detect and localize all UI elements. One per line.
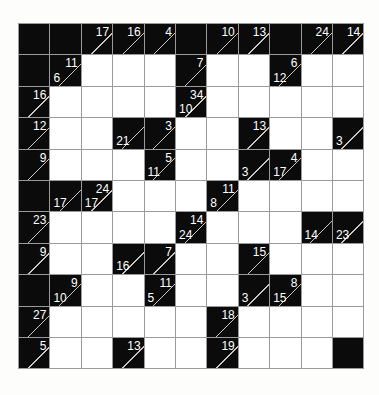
- entry-cell[interactable]: [82, 275, 113, 306]
- clue-across-value: 27: [33, 309, 46, 321]
- entry-cell[interactable]: [270, 244, 301, 275]
- entry-cell[interactable]: [176, 181, 207, 212]
- entry-cell[interactable]: [82, 118, 113, 149]
- entry-cell[interactable]: [50, 244, 81, 275]
- blocked-cell: [19, 181, 50, 212]
- entry-cell[interactable]: [302, 55, 333, 86]
- entry-cell[interactable]: [82, 150, 113, 181]
- entry-cell[interactable]: [207, 244, 238, 275]
- entry-cell[interactable]: [82, 338, 113, 369]
- clue-across-value: 14: [347, 26, 360, 38]
- entry-cell[interactable]: [239, 307, 270, 338]
- entry-cell[interactable]: [302, 338, 333, 369]
- entry-cell[interactable]: [82, 212, 113, 243]
- entry-cell[interactable]: [302, 118, 333, 149]
- entry-cell[interactable]: [82, 87, 113, 118]
- entry-cell[interactable]: [270, 307, 301, 338]
- clue-cell: 13: [239, 118, 270, 149]
- entry-cell[interactable]: [176, 338, 207, 369]
- clue-across-value: 3: [165, 120, 172, 132]
- entry-cell[interactable]: [302, 150, 333, 181]
- clue-across-value: 4: [165, 26, 172, 38]
- blocked-cell: [333, 338, 364, 369]
- entry-cell[interactable]: [50, 87, 81, 118]
- entry-cell[interactable]: [113, 181, 144, 212]
- clue-cell: 17: [50, 181, 81, 212]
- entry-cell[interactable]: [145, 338, 176, 369]
- entry-cell[interactable]: [333, 307, 364, 338]
- clue-cell: 16: [113, 244, 144, 275]
- entry-cell[interactable]: [50, 338, 81, 369]
- entry-cell[interactable]: [239, 212, 270, 243]
- entry-cell[interactable]: [207, 212, 238, 243]
- entry-cell[interactable]: [333, 55, 364, 86]
- entry-cell[interactable]: [333, 150, 364, 181]
- entry-cell[interactable]: [207, 87, 238, 118]
- clue-across-value: 14: [190, 214, 203, 226]
- entry-cell[interactable]: [176, 118, 207, 149]
- entry-cell[interactable]: [113, 275, 144, 306]
- entry-cell[interactable]: [302, 307, 333, 338]
- entry-cell[interactable]: [207, 118, 238, 149]
- entry-cell[interactable]: [302, 244, 333, 275]
- entry-cell[interactable]: [113, 55, 144, 86]
- clue-cell: 19: [207, 338, 238, 369]
- clue-down-value: 16: [116, 260, 129, 272]
- entry-cell[interactable]: [82, 244, 113, 275]
- entry-cell[interactable]: [145, 181, 176, 212]
- clue-cell: 18: [207, 307, 238, 338]
- entry-cell[interactable]: [333, 275, 364, 306]
- entry-cell[interactable]: [50, 150, 81, 181]
- clue-cell: 115: [145, 275, 176, 306]
- blocked-cell: [176, 24, 207, 55]
- entry-cell[interactable]: [50, 307, 81, 338]
- entry-cell[interactable]: [207, 55, 238, 86]
- clue-across-value: 4: [291, 152, 298, 164]
- entry-cell[interactable]: [207, 275, 238, 306]
- entry-cell[interactable]: [239, 55, 270, 86]
- entry-cell[interactable]: [145, 87, 176, 118]
- entry-cell[interactable]: [50, 118, 81, 149]
- entry-cell[interactable]: [207, 150, 238, 181]
- entry-cell[interactable]: [239, 87, 270, 118]
- entry-cell[interactable]: [176, 150, 207, 181]
- clue-across-value: 8: [291, 277, 298, 289]
- entry-cell[interactable]: [50, 212, 81, 243]
- entry-cell[interactable]: [145, 55, 176, 86]
- clue-cell: 17: [82, 24, 113, 55]
- entry-cell[interactable]: [270, 181, 301, 212]
- entry-cell[interactable]: [176, 275, 207, 306]
- entry-cell[interactable]: [302, 275, 333, 306]
- clue-cell: 9: [19, 244, 50, 275]
- clue-cell: 7: [176, 55, 207, 86]
- entry-cell[interactable]: [302, 87, 333, 118]
- entry-cell[interactable]: [82, 307, 113, 338]
- clue-cell: 910: [50, 275, 81, 306]
- clue-across-value: 16: [33, 89, 46, 101]
- clue-across-value: 6: [291, 57, 298, 69]
- entry-cell[interactable]: [145, 212, 176, 243]
- entry-cell[interactable]: [239, 338, 270, 369]
- clue-cell: 21: [113, 118, 144, 149]
- entry-cell[interactable]: [333, 181, 364, 212]
- entry-cell[interactable]: [302, 181, 333, 212]
- clue-cell: 3: [145, 118, 176, 149]
- entry-cell[interactable]: [82, 55, 113, 86]
- entry-cell[interactable]: [145, 307, 176, 338]
- entry-cell[interactable]: [270, 212, 301, 243]
- clue-cell: 15: [239, 244, 270, 275]
- entry-cell[interactable]: [113, 87, 144, 118]
- entry-cell[interactable]: [270, 87, 301, 118]
- entry-cell[interactable]: [239, 181, 270, 212]
- entry-cell[interactable]: [113, 212, 144, 243]
- clue-down-value: 5: [148, 292, 155, 304]
- entry-cell[interactable]: [113, 307, 144, 338]
- entry-cell[interactable]: [113, 150, 144, 181]
- entry-cell[interactable]: [176, 244, 207, 275]
- entry-cell[interactable]: [270, 118, 301, 149]
- entry-cell[interactable]: [176, 307, 207, 338]
- entry-cell[interactable]: [270, 338, 301, 369]
- entry-cell[interactable]: [333, 87, 364, 118]
- clue-across-value: 7: [165, 246, 172, 258]
- entry-cell[interactable]: [333, 244, 364, 275]
